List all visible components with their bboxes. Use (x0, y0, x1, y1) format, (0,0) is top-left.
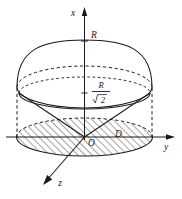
fraction-denominator: 2 (101, 95, 106, 105)
oblique-axis-arrowhead (43, 175, 52, 185)
fraction-numerator: R (97, 80, 104, 90)
axis-label-horizontal: y (163, 142, 169, 152)
label-region-D: D (114, 129, 122, 139)
label-origin-O: O (88, 138, 95, 148)
label-cone-height-fraction: R 2 (92, 80, 110, 105)
axis-label-oblique: z (57, 178, 62, 188)
figure-labels: x y z R O D R 2 (57, 8, 169, 188)
vertical-axis-arrowhead (82, 7, 87, 16)
horizontal-axis-arrowhead (166, 134, 175, 139)
geometry-figure: x y z R O D R 2 (0, 0, 182, 199)
figure-canvas: x y z R O D R 2 (0, 0, 182, 199)
axis-label-vertical: x (70, 8, 76, 18)
label-sphere-radius-R: R (90, 30, 97, 40)
